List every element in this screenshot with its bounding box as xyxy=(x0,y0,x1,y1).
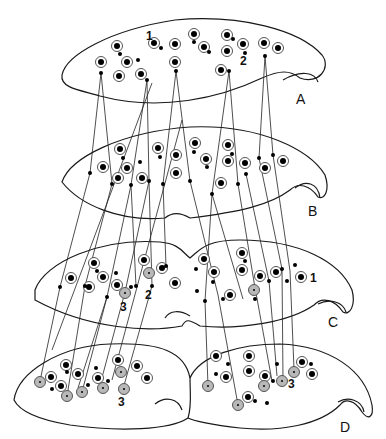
panel-label-d: D xyxy=(340,419,350,435)
cell-label-3-d-right: 3 xyxy=(288,377,295,391)
cell-label-2-a: 2 xyxy=(240,54,247,68)
cell-label-1-a: 1 xyxy=(146,29,153,43)
panel-a-cells xyxy=(96,29,284,83)
panel-label-c: C xyxy=(328,314,338,330)
panel-label-a: A xyxy=(296,91,306,107)
panel-d-outline xyxy=(14,344,372,429)
panel-c-outline xyxy=(35,240,353,329)
lineage-connectors xyxy=(40,56,294,405)
panel-labels: A B C D xyxy=(296,91,350,435)
cell-lineage-diagram: A B C D 1 2 3 2 1 3 3 xyxy=(0,0,386,439)
panel-label-b: B xyxy=(308,203,317,219)
panel-c-cells xyxy=(58,248,307,304)
cell-label-1-c: 1 xyxy=(310,271,317,285)
cell-label-3-c: 3 xyxy=(120,300,127,314)
cell-label-3-d-left: 3 xyxy=(118,395,125,409)
cell-label-2-c: 2 xyxy=(145,288,152,302)
